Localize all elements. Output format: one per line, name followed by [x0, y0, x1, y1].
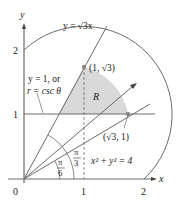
y-axis-label: y: [19, 9, 25, 20]
x-tick-2: 2: [141, 186, 146, 197]
y-tick-1: 1: [13, 109, 18, 120]
label-leader: [37, 93, 43, 113]
line-y1-polar-label: r = csc θ: [27, 86, 61, 96]
line-pi-over-6: [24, 104, 150, 179]
angle-pi6-num: π: [58, 157, 63, 167]
point-sqrt3-1: [126, 112, 130, 116]
polar-region-diagram: y x 0 1 2 2 1 y = √3x (1, √3) y = 1, or …: [0, 0, 178, 201]
point-lower-label: (√3, 1): [103, 132, 129, 143]
region-label: R: [92, 91, 99, 102]
point-leader: [124, 115, 128, 128]
point-upper-label: (1, √3): [89, 63, 115, 74]
angle-pi6-den: 6: [58, 168, 62, 178]
line-y1-label: y = 1, or: [28, 74, 61, 84]
origin-label: 0: [13, 186, 18, 197]
point-1-sqrt3: [82, 65, 86, 69]
y-axis-arrow-icon: [22, 23, 26, 29]
y-tick-2: 2: [13, 45, 18, 56]
angle-pi3-den: 3: [74, 158, 78, 168]
x-axis-label: x: [158, 173, 164, 184]
x-tick-1: 1: [81, 186, 86, 197]
circle-label: x² + y² = 4: [90, 156, 132, 166]
line-sqrt3x-label: y = √3x: [63, 21, 93, 31]
angle-pi3-num: π: [74, 147, 79, 157]
x-axis-arrow-icon: [151, 177, 157, 181]
